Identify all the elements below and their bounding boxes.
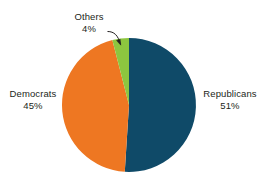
pie-label-democrats-value: 45% bbox=[2, 100, 64, 112]
pie-slice-republicans[interactable] bbox=[125, 38, 196, 172]
pie-label-republicans: Republicans 51% bbox=[197, 88, 263, 111]
pie-label-others-name: Others bbox=[61, 11, 117, 23]
pie-label-others: Others 4% bbox=[61, 11, 117, 34]
pie-slices bbox=[62, 38, 196, 172]
pie-label-republicans-name: Republicans bbox=[197, 88, 263, 100]
pie-label-others-value: 4% bbox=[61, 23, 117, 35]
pie-label-democrats: Democrats 45% bbox=[2, 88, 64, 111]
pie-label-democrats-name: Democrats bbox=[2, 88, 64, 100]
pie-label-republicans-value: 51% bbox=[197, 100, 263, 112]
pie-chart: Others 4% Democrats 45% Republicans 51% bbox=[0, 0, 265, 181]
